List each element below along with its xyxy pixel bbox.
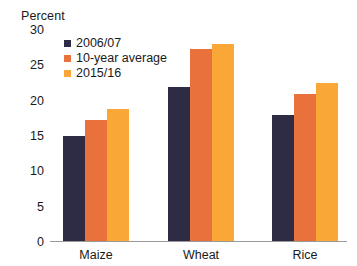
legend-label: 10-year average [76,52,167,65]
legend: 2006/0710-year average2015/16 [64,36,167,81]
bar [190,49,212,242]
x-axis-tick-label: Maize [79,248,112,262]
bar-chart: Percent 051015202530 2006/0710-year aver… [0,0,357,266]
x-axis-tick-label: Rice [292,248,317,262]
y-axis-tick-label: 20 [18,94,44,108]
bar-group [168,30,234,242]
y-axis-tick-label: 10 [18,164,44,178]
bar [107,109,129,242]
bar [168,87,190,242]
y-axis-tick-label: 15 [18,129,44,143]
legend-label: 2006/07 [76,37,121,50]
legend-item: 10-year average [64,51,167,66]
y-axis-tick-label: 0 [18,235,44,249]
bar [272,115,294,242]
bar [316,83,338,242]
bar [212,44,234,242]
legend-label: 2015/16 [76,67,121,80]
y-axis: 051015202530 [18,0,44,266]
bar [85,120,107,242]
y-axis-tick-label: 25 [18,58,44,72]
bar [294,94,316,242]
bar-group [272,30,338,242]
legend-swatch-icon [64,40,71,47]
legend-item: 2015/16 [64,66,167,81]
legend-swatch-icon [64,55,71,62]
legend-swatch-icon [64,70,71,77]
bar [63,136,85,242]
y-axis-tick-label: 5 [18,200,44,214]
x-axis-tick-label: Wheat [183,248,219,262]
x-axis-line [50,241,347,242]
y-axis-tick-label: 30 [18,23,44,37]
legend-item: 2006/07 [64,36,167,51]
